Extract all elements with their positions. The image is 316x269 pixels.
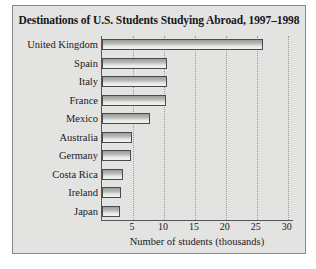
bar [102, 206, 120, 217]
bar [102, 113, 150, 124]
category-label: Spain [74, 56, 98, 72]
bar [102, 58, 167, 69]
plot-wrapper: United KingdomSpainItalyFranceMexicoAust… [13, 36, 307, 221]
category-label: Italy [79, 74, 98, 90]
bar [102, 187, 121, 198]
chart-title: Destinations of U.S. Students Studying A… [13, 14, 305, 26]
category-axis: United KingdomSpainItalyFranceMexicoAust… [13, 36, 101, 221]
chart-figure: Destinations of U.S. Students Studying A… [12, 5, 306, 254]
x-axis-label: Number of students (thousands) [101, 236, 293, 247]
category-label: Ireland [68, 185, 98, 201]
bar [102, 150, 131, 161]
x-tick-label: 5 [120, 221, 144, 232]
x-tick-label: 20 [213, 221, 237, 232]
category-label: Mexico [66, 111, 98, 127]
bar [102, 169, 123, 180]
gridline [257, 36, 258, 220]
bar [102, 95, 166, 106]
gridline [226, 36, 227, 220]
category-label: Germany [59, 148, 98, 164]
category-label: Australia [60, 130, 99, 146]
bar [102, 39, 263, 50]
plot-area [101, 36, 293, 221]
bar [102, 132, 132, 143]
x-tick-label: 15 [182, 221, 206, 232]
category-label: United Kingdom [27, 37, 98, 53]
x-tick-label: 30 [275, 221, 299, 232]
category-label: France [69, 93, 98, 109]
category-label: Costa Rica [52, 167, 98, 183]
gridline [288, 36, 289, 220]
x-tick-label: 25 [244, 221, 268, 232]
bar [102, 76, 167, 87]
x-tick-label: 10 [151, 221, 175, 232]
category-label: Japan [74, 204, 98, 220]
x-axis-ticks: 51015202530 [101, 221, 293, 237]
gridline [195, 36, 196, 220]
